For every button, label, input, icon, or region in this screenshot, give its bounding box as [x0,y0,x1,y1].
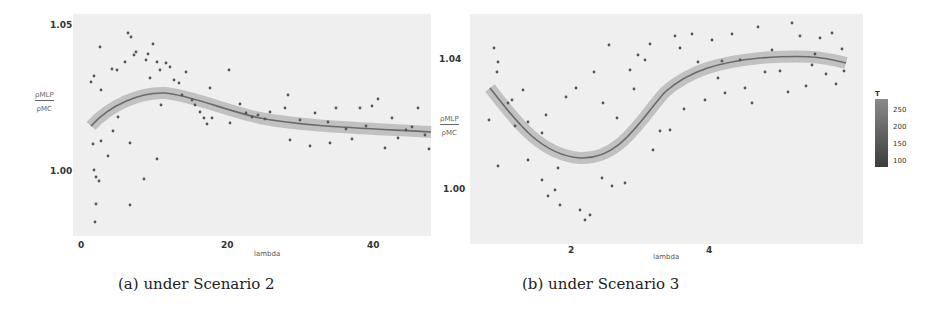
ytick-1-04-b: 1.04 [439,54,461,64]
legend-tick-100: 100 [893,157,906,165]
scatter-plot-b [470,0,942,321]
ylabel-b: ρMLP ρMC [440,115,459,137]
ytick-1-00-b: 1.00 [443,184,465,194]
xtick-4-b: 4 [706,245,712,255]
xlabel-a: lambda [254,250,280,258]
ylabel-denominator: ρMC [442,129,457,137]
panel-scenario-3: 1.04 1.00 ρMLP ρMC 2 4 lambda (b) under … [470,0,942,321]
xlabel-b: lambda [653,253,679,261]
legend-title: T [875,90,880,98]
caption-a: (a) under Scenario 2 [118,275,275,293]
xtick-2-b: 2 [568,245,574,255]
legend-colorbar [875,99,888,167]
xtick-40-a: 40 [367,240,380,250]
panel-scenario-2: 1.05 1.00 ρMLP ρMC 0 20 40 lambda (a) un… [0,0,470,321]
xtick-20-a: 20 [221,240,234,250]
ylabel-denominator: ρMC [37,105,52,113]
color-legend-T: T 250 200 150 100 [873,90,933,170]
legend-tick-150: 150 [893,140,906,148]
legend-tick-250: 250 [893,106,906,114]
ytick-1-05-a: 1.05 [50,20,72,30]
scatter-plot-a [0,0,470,321]
ylabel-numerator: ρMLP [35,91,54,101]
ylabel-numerator: ρMLP [440,115,459,125]
xtick-0-a: 0 [78,240,84,250]
legend-tick-200: 200 [893,123,906,131]
caption-b: (b) under Scenario 3 [522,275,679,293]
ylabel-a: ρMLP ρMC [35,91,54,113]
ytick-1-00-a: 1.00 [50,166,72,176]
